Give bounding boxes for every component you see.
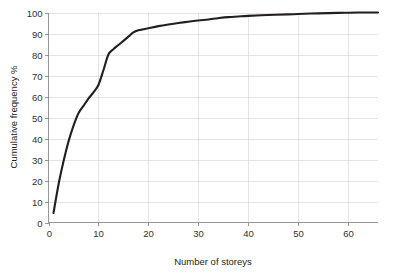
x-tick-label: 10	[93, 228, 104, 239]
y-tick-label: 40	[32, 134, 43, 145]
x-axis-title: Number of storeys	[174, 256, 252, 267]
y-tick-label: 80	[32, 50, 43, 61]
y-tick-label: 90	[32, 29, 43, 40]
x-tick-label: 40	[243, 228, 254, 239]
x-tick-label: 0	[47, 228, 52, 239]
y-tick-label: 60	[32, 92, 43, 103]
y-tick-label: 70	[32, 71, 43, 82]
cumulative-frequency-chart: 0102030405060708090100 0102030405060 Num…	[0, 0, 393, 273]
x-tick-label: 20	[143, 228, 154, 239]
y-tick-label: 0	[37, 218, 42, 229]
chart-canvas: 0102030405060708090100 0102030405060 Num…	[0, 0, 393, 273]
y-tick-label: 10	[32, 197, 43, 208]
x-tick-label: 60	[343, 228, 354, 239]
y-tick-label: 30	[32, 155, 43, 166]
x-tick-label: 50	[293, 228, 304, 239]
y-axis-title: Cumulative frequency %	[8, 65, 19, 169]
y-tick-label: 50	[32, 113, 43, 124]
y-tick-label: 100	[27, 8, 43, 19]
x-tick-label: 30	[193, 228, 204, 239]
y-tick-label: 20	[32, 176, 43, 187]
